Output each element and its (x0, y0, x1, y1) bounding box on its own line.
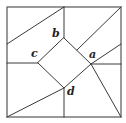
inner-square-abcd (38, 38, 91, 88)
line-ab-edge-to-top-right (77, 7, 121, 50)
line-a-to-bottom-right (91, 64, 121, 117)
label-d: d (67, 85, 75, 98)
geometry-diagram: a b c d (0, 0, 126, 123)
line-d-to-bottom-left (7, 88, 64, 117)
label-a: a (89, 48, 96, 61)
label-c: c (31, 47, 38, 60)
label-b: b (52, 27, 60, 40)
